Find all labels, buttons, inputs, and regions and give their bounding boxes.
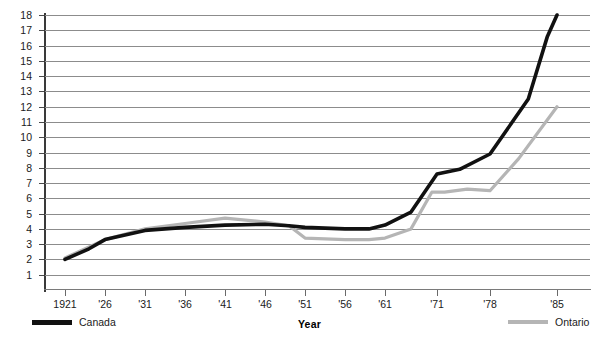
y-tick-mark [39,244,44,245]
y-tick-label: 6 [6,193,32,203]
y-tick-label: 1 [6,270,32,280]
x-tick-label: '26 [85,299,125,310]
x-tick-label: '36 [165,299,205,310]
y-tick-mark [39,259,44,260]
grid-line [45,46,590,47]
y-tick-mark [39,183,44,184]
y-tick-mark [39,76,44,77]
x-tick-mark [385,290,386,296]
y-tick-label: 13 [6,86,32,96]
y-tick-mark [39,137,44,138]
y-tick-label: 8 [6,163,32,173]
grid-line [45,30,590,31]
x-tick-label: '41 [205,299,245,310]
x-tick-label: '56 [325,299,365,310]
y-tick-label: 15 [6,56,32,66]
x-tick-mark [185,290,186,296]
x-axis-title: Year [298,318,321,330]
grid-line [45,259,590,260]
x-tick-mark [65,290,66,296]
y-tick-mark [39,91,44,92]
y-tick-label: 14 [6,71,32,81]
grid-line [45,91,590,92]
legend-item-canada: Canada [32,316,116,328]
legend-swatch-ontario [508,320,548,324]
x-tick-mark [305,290,306,296]
y-tick-mark [39,275,44,276]
grid-line [45,168,590,169]
x-tick-mark [265,290,266,296]
y-tick-label: 16 [6,41,32,51]
x-tick-label: '51 [285,299,325,310]
grid-line [45,15,590,16]
x-tick-label: 1921 [45,299,85,310]
y-tick-label: 11 [6,117,32,127]
grid-line [45,244,590,245]
y-tick-label: 12 [6,102,32,112]
y-tick-mark [39,198,44,199]
x-tick-label: '85 [537,299,577,310]
grid-line [45,76,590,77]
y-tick-label: 9 [6,148,32,158]
legend-label-canada: Canada [79,316,116,328]
x-tick-label: '61 [365,299,405,310]
y-tick-label: 10 [6,132,32,142]
x-tick-mark [490,290,491,296]
y-tick-mark [39,61,44,62]
y-tick-mark [39,107,44,108]
y-tick-mark [39,214,44,215]
legend-swatch-canada [32,320,72,325]
grid-lines [45,15,590,290]
grid-line [45,153,590,154]
grid-line [45,61,590,62]
grid-line [45,137,590,138]
grid-line [45,183,590,184]
y-tick-mark [39,229,44,230]
grid-line [45,122,590,123]
x-tick-mark [145,290,146,296]
grid-line [45,229,590,230]
y-tick-label: 3 [6,239,32,249]
x-tick-label: '78 [470,299,510,310]
y-tick-mark [39,15,44,16]
y-tick-mark [39,46,44,47]
legend-label-ontario: Ontario [555,316,589,328]
y-tick-label: 5 [6,209,32,219]
x-tick-mark [345,290,346,296]
y-tick-mark [39,30,44,31]
y-tick-mark [39,122,44,123]
legend-item-ontario: Ontario [508,316,589,328]
y-tick-label: 2 [6,254,32,264]
grid-line [45,275,590,276]
grid-line [45,214,590,215]
y-tick-mark [39,153,44,154]
x-tick-label: '31 [125,299,165,310]
y-tick-mark [39,168,44,169]
x-tick-label: '71 [417,299,457,310]
x-tick-mark [225,290,226,296]
y-tick-label: 4 [6,224,32,234]
grid-line [45,107,590,108]
x-tick-mark [105,290,106,296]
grid-line [45,198,590,199]
x-tick-label: '46 [245,299,285,310]
x-tick-mark [437,290,438,296]
y-tick-label: 17 [6,25,32,35]
y-tick-label: 7 [6,178,32,188]
y-tick-label: 18 [6,10,32,20]
x-tick-mark [557,290,558,296]
chart-figure: 123456789101112131415161718 1921'26'31'3… [0,0,604,342]
